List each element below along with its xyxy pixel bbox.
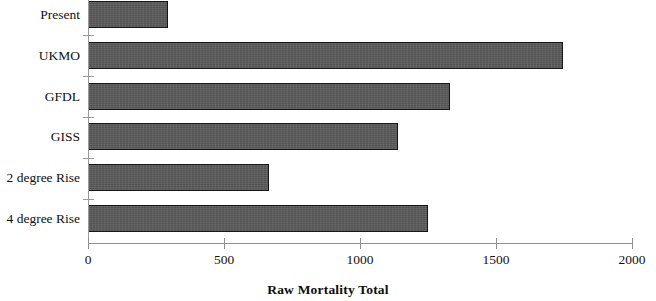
x-axis-tick-500 [224,238,225,249]
x-axis-tick-label-1000: 1000 [320,252,400,267]
bar-chart: Present UKMO GFDL GISS 2 degree Rise 4 d… [0,0,656,301]
x-axis-tick-label-0: 0 [48,252,128,267]
y-axis-label-4-degree-rise: 4 degree Rise [0,211,80,226]
y-axis-tick-2 [83,76,94,77]
x-axis-tick-label-1500: 1500 [456,252,536,267]
y-axis-line [88,0,89,243]
x-axis-tick-1500 [496,238,497,249]
y-axis-label-present: Present [0,7,80,22]
bar-gfdl[interactable] [88,83,450,110]
x-axis-tick-1000 [360,238,361,249]
bar-present[interactable] [88,1,168,28]
y-axis-category-labels: Present UKMO GFDL GISS 2 degree Rise 4 d… [0,0,84,243]
x-axis-tick-label-2000: 2000 [592,252,656,267]
y-axis-label-ukmo: UKMO [0,48,80,63]
y-axis-label-gfdl: GFDL [0,89,80,104]
x-axis-tick-label-500: 500 [184,252,264,267]
x-axis-title: Raw Mortality Total [0,282,656,298]
y-axis-tick-3 [83,117,94,118]
plot-area [88,0,632,243]
bar-row-2-degree-rise [88,163,632,204]
bar-row-gfdl [88,82,632,123]
y-axis-tick-5 [83,199,94,200]
x-axis-tick-2000 [632,238,633,249]
y-axis-tick-1 [83,35,94,36]
y-axis-label-giss: GISS [0,129,80,144]
bar-row-present [88,0,632,41]
bar-2-degree-rise[interactable] [88,164,269,191]
y-axis-tick-4 [83,158,94,159]
y-axis-label-2-degree-rise: 2 degree Rise [0,170,80,185]
bar-4-degree-rise[interactable] [88,205,428,232]
bar-row-ukmo [88,41,632,82]
bar-ukmo[interactable] [88,42,563,69]
bar-row-giss [88,122,632,163]
x-axis-tick-0 [88,238,89,249]
bar-giss[interactable] [88,123,398,150]
